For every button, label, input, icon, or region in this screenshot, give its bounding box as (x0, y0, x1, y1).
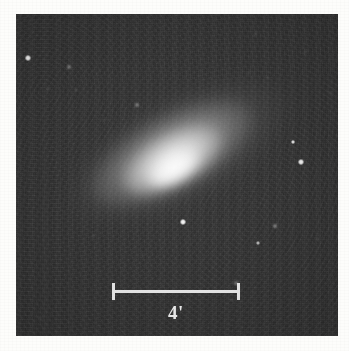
field-star (25, 55, 30, 60)
scale-bar-cap-right (237, 283, 240, 300)
field-star (75, 89, 78, 92)
field-star (103, 119, 106, 122)
scan-banding (16, 14, 338, 336)
galaxy-outer-halo (47, 50, 308, 252)
field-star (231, 299, 234, 302)
field-star (92, 235, 95, 238)
field-star (39, 317, 42, 320)
scale-bar-cap-left (112, 283, 115, 300)
field-star (317, 238, 320, 241)
field-star (329, 92, 331, 94)
field-star (291, 140, 296, 145)
field-star (304, 51, 307, 54)
scale-bar-label: 4' (112, 303, 240, 322)
field-star (248, 72, 251, 75)
field-star (267, 77, 269, 79)
astronomical-plate: 4' (16, 14, 338, 336)
field-star (298, 159, 304, 165)
field-star (234, 281, 237, 284)
field-star (67, 65, 70, 68)
plate-vignette (16, 14, 338, 336)
film-grain (16, 14, 338, 336)
figure-page: 4' (0, 0, 349, 351)
galaxy-mid-halo (77, 79, 267, 227)
field-star (141, 254, 143, 256)
film-grain-secondary (16, 14, 338, 336)
field-star (273, 224, 277, 228)
galaxy-core (143, 142, 205, 194)
scale-bar-line (112, 290, 240, 293)
field-star (256, 241, 260, 245)
field-star (47, 88, 50, 91)
field-star (255, 33, 258, 36)
galaxy-bulge (115, 113, 232, 208)
field-star (180, 219, 187, 226)
field-star (135, 103, 138, 106)
